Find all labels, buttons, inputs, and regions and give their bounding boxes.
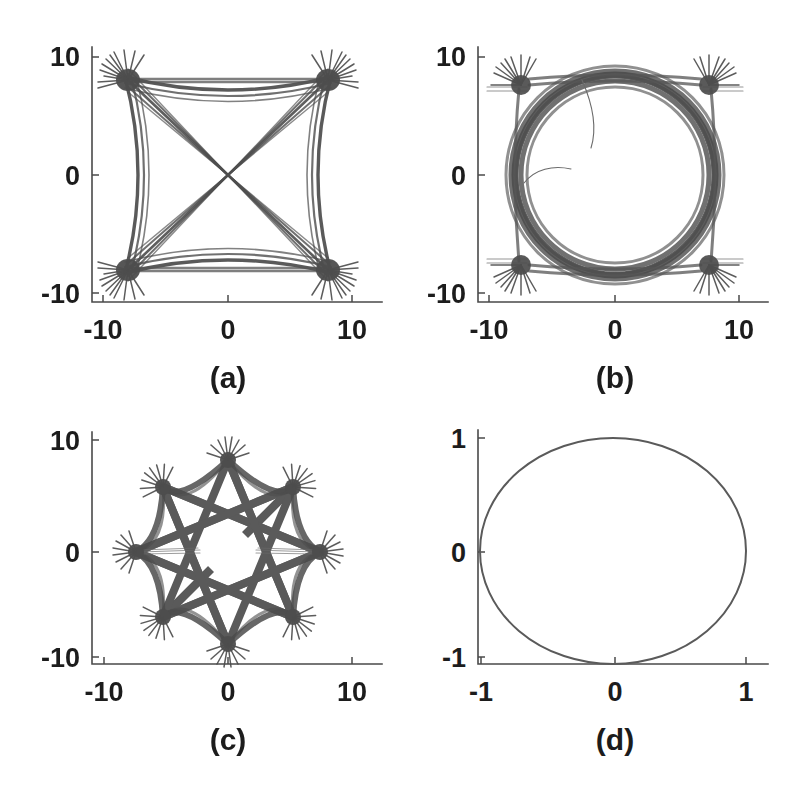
panel-b-xtick-label-left: -10 (469, 315, 508, 345)
panel-a-ytick-label-mid: 0 (65, 161, 80, 191)
panel-c-ytick-label-mid: 0 (65, 538, 80, 568)
transient-trajectory-left (524, 168, 571, 183)
panel-d-axes (478, 430, 768, 664)
panel-c-ytick-label-top: 10 (50, 426, 80, 456)
panel-b-ytick-label-bottom: -10 (427, 279, 466, 309)
panel-b: 10 0 -10 -10 0 10 (b) (389, 0, 789, 402)
panel-b-caption: (b) (596, 361, 634, 394)
panel-b-attractor (487, 55, 743, 295)
panel-d-xtick-label-right: 1 (738, 677, 753, 707)
panel-a-ytick-label-bottom: -10 (41, 279, 80, 309)
panel-d-limit-cycle (480, 438, 746, 664)
panel-b-ytick-label-mid: 0 (451, 161, 466, 191)
panel-c-svg: 10 0 -10 -10 0 10 (c) (0, 402, 400, 804)
panel-a-svg: 10 0 -10 -10 0 10 (a) (0, 0, 400, 402)
panel-a: 10 0 -10 -10 0 10 (a) (0, 0, 400, 402)
panel-d-ytick-label-top: 1 (451, 424, 466, 454)
panel-d-svg: 1 0 -1 -1 0 1 (d) (389, 402, 789, 804)
panel-c-xtick-label-right: 10 (337, 677, 367, 707)
panel-d: 1 0 -1 -1 0 1 (d) (389, 402, 789, 804)
axis-lines (478, 430, 768, 664)
panel-c-xtick-label-mid: 0 (220, 677, 235, 707)
central-octagonal-hole (204, 528, 252, 576)
panel-a-xtick-label-left: -10 (83, 315, 122, 345)
panel-a-xtick-label-right: 10 (337, 315, 367, 345)
panel-b-xtick-label-mid: 0 (607, 315, 622, 345)
panel-c-ytick-label-bottom: -10 (41, 643, 80, 673)
panel-b-xtick-label-right: 10 (724, 315, 754, 345)
panel-b-svg: 10 0 -10 -10 0 10 (b) (389, 0, 789, 402)
unit-circle-trajectory (480, 438, 746, 664)
panel-d-xtick-label-mid: 0 (607, 677, 622, 707)
panel-a-xtick-label-mid: 0 (220, 315, 235, 345)
panel-d-ytick-label-bottom: -1 (442, 643, 466, 673)
panel-a-ytick-label-top: 10 (50, 42, 80, 72)
panel-a-caption: (a) (210, 361, 247, 394)
panel-c-xtick-label-left: -10 (84, 677, 123, 707)
panel-c-caption: (c) (210, 723, 247, 756)
figure-canvas: 10 0 -10 -10 0 10 (a) (0, 0, 789, 804)
panel-c-attractor (113, 437, 343, 667)
panel-d-xtick-label-left: -1 (469, 677, 493, 707)
panel-b-ytick-label-top: 10 (436, 42, 466, 72)
panel-d-ytick-label-mid: 0 (451, 538, 466, 568)
panel-a-attractor (98, 50, 358, 300)
panel-d-caption: (d) (596, 723, 634, 756)
panel-c: 10 0 -10 -10 0 10 (c) (0, 402, 400, 804)
